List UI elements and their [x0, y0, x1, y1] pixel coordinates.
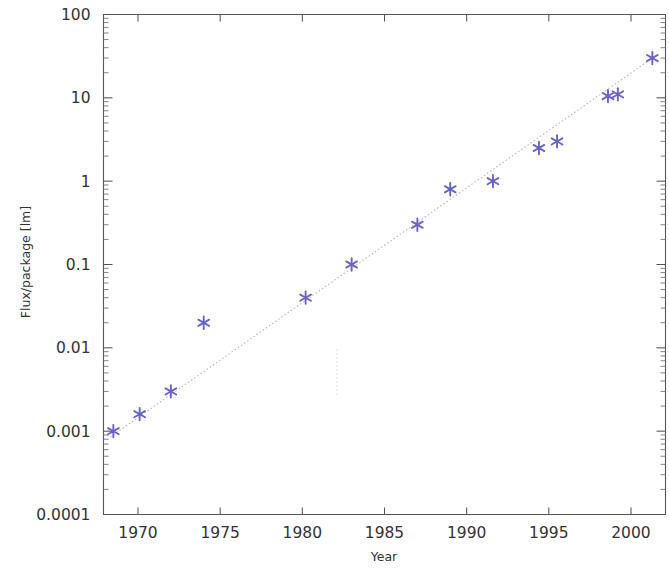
data-point [198, 317, 209, 329]
marker-center [491, 180, 494, 183]
marker-center [138, 413, 141, 416]
y-tick-label: 0.001 [46, 423, 90, 441]
x-axis-title: Year [370, 549, 398, 564]
x-tick-label: 1980 [283, 524, 322, 542]
y-tick-label: 0.1 [66, 256, 91, 274]
x-tick-label: 2000 [611, 524, 650, 542]
y-tick-label: 1 [81, 173, 91, 191]
trend-line [110, 55, 657, 437]
marker-center [651, 57, 654, 60]
marker-center [556, 140, 559, 143]
marker-center [606, 95, 609, 98]
marker-center [202, 321, 205, 324]
y-tick-label: 0.01 [56, 339, 91, 357]
marker-center [416, 223, 419, 226]
data-point [534, 142, 545, 154]
marker-center [169, 390, 172, 393]
marker-center [304, 296, 307, 299]
data-point [346, 258, 357, 270]
y-tick-label: 0.0001 [36, 506, 90, 524]
data-point [412, 219, 423, 231]
marker-center [616, 93, 619, 96]
data-point [647, 52, 658, 64]
x-axis-ticks [138, 15, 631, 515]
x-tick-label: 1970 [118, 524, 157, 542]
data-point [552, 135, 563, 147]
chart-figure: 1970197519801985199019952000 0.00010.001… [0, 0, 669, 576]
y-axis-title: Flux/package [lm] [18, 206, 33, 318]
y-axis-ticks [104, 15, 666, 515]
x-tick-label: 1995 [529, 524, 568, 542]
x-tick-label: 1990 [447, 524, 486, 542]
data-point [488, 175, 499, 187]
y-tick-label: 10 [71, 89, 91, 107]
x-tick-label: 1975 [200, 524, 239, 542]
y-axis-minor-ticks [104, 18, 666, 489]
trend-line-group [110, 55, 657, 437]
data-point [445, 183, 456, 195]
plot-frame [104, 15, 666, 515]
y-tick-label: 100 [61, 6, 91, 24]
x-axis-tick-labels: 1970197519801985199019952000 [118, 524, 650, 542]
marker-center [112, 430, 115, 433]
marker-center [350, 263, 353, 266]
data-point-markers [108, 52, 658, 437]
marker-center [537, 147, 540, 150]
marker-center [449, 188, 452, 191]
y-axis-tick-labels: 0.00010.0010.010.1110100 [36, 6, 90, 524]
data-point [166, 385, 177, 397]
chart-svg: 1970197519801985199019952000 0.00010.001… [0, 0, 669, 576]
axis-frame-path [104, 15, 666, 515]
x-tick-label: 1985 [365, 524, 404, 542]
